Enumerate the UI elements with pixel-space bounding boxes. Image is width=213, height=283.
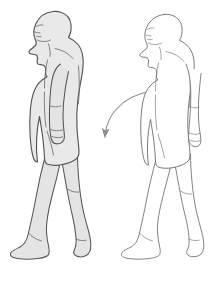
right-figure-outline: [121, 14, 203, 259]
right-figure-front-leg: [173, 155, 204, 257]
left-figure-shaded: [10, 11, 90, 259]
left-figure-front-leg: [60, 152, 91, 257]
illustration-canvas: [0, 0, 213, 283]
walking-posture-illustration: [0, 0, 213, 283]
right-figure-torso-and-head: [140, 14, 194, 168]
left-figure-rear-leg: [10, 155, 59, 259]
right-figure-rear-leg: [121, 158, 170, 259]
